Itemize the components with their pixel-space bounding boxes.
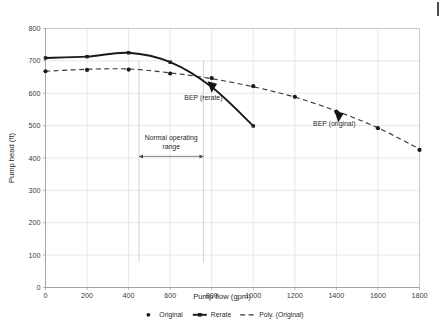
- y-axis-title: Pump head (ft): [7, 132, 16, 183]
- data-point-rerate: [168, 60, 171, 63]
- x-tick-label: 600: [164, 291, 176, 300]
- legend-label: Original: [159, 311, 183, 319]
- legend-label: Poly. (Original): [259, 311, 303, 319]
- legend-marker-square: [198, 313, 202, 317]
- y-tick-label: 300: [29, 186, 41, 195]
- x-tick-label: 400: [123, 291, 135, 300]
- pump-curve-chart: Normal operatingrange BEP (rerate)BEP (o…: [0, 0, 445, 330]
- data-point-original: [293, 95, 297, 99]
- legend-marker-dot: [146, 313, 150, 317]
- data-point-original: [417, 148, 421, 152]
- data-point-original: [85, 68, 89, 72]
- y-tick-label: 100: [29, 251, 41, 260]
- chart-svg: Normal operatingrange BEP (rerate)BEP (o…: [0, 0, 445, 330]
- range-label-line2: range: [162, 143, 180, 151]
- data-point-original: [376, 126, 380, 130]
- x-tick-label: 1400: [328, 291, 344, 300]
- data-point-original: [43, 69, 47, 73]
- data-point-original: [127, 68, 131, 72]
- page-edge-mark: [437, 2, 439, 16]
- range-label-line1: Normal operating: [145, 134, 198, 142]
- data-point-rerate: [127, 51, 130, 54]
- data-point-rerate: [85, 55, 88, 58]
- data-point-original: [168, 71, 172, 75]
- y-tick-label: 400: [29, 154, 41, 163]
- y-tick-label: 800: [29, 24, 41, 33]
- data-point-rerate: [252, 124, 255, 127]
- data-point-original: [210, 76, 214, 80]
- chart-legend: OriginalReratePoly. (Original): [146, 311, 303, 319]
- y-tick-label: 0: [37, 283, 41, 292]
- chart-background: [0, 0, 445, 330]
- y-tick-label: 700: [29, 56, 41, 65]
- y-tick-label: 600: [29, 89, 41, 98]
- data-point-rerate: [44, 56, 47, 59]
- x-tick-label: 0: [44, 291, 48, 300]
- x-tick-label: 1600: [370, 291, 386, 300]
- x-axis-title: Pump flow (gpm): [193, 292, 251, 301]
- data-point-original: [251, 84, 255, 88]
- bep-label-bep-original: BEP (original): [313, 120, 355, 128]
- x-tick-label: 200: [81, 291, 93, 300]
- bep-label-bep-rerate: BEP (rerate): [184, 94, 222, 102]
- y-tick-label: 500: [29, 121, 41, 130]
- legend-label: Rerate: [211, 311, 232, 318]
- x-tick-label: 1800: [412, 291, 428, 300]
- y-tick-label: 200: [29, 218, 41, 227]
- x-tick-label: 1200: [287, 291, 303, 300]
